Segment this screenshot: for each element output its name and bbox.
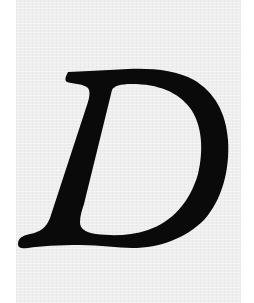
- letter-canvas: D: [0, 0, 254, 303]
- letter-d-glyph: [0, 0, 254, 303]
